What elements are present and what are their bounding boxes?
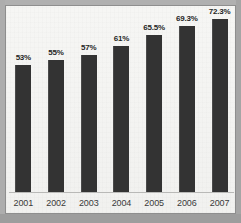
x-axis-tick-label: 2001 (8, 198, 39, 208)
bar (179, 26, 195, 192)
bar-value-label: 69.3% (176, 14, 198, 23)
bar-value-label: 53% (16, 53, 31, 62)
x-axis-tick-label: 2006 (171, 198, 202, 208)
x-axis-tick-label: 2007 (204, 198, 235, 208)
bar-slot: 72.3% (204, 7, 235, 192)
bar-value-label: 72.3% (209, 7, 231, 16)
bar (15, 65, 31, 192)
bar (212, 19, 228, 192)
plot-area: 53%55%57%61%65.5%69.3%72.3% (7, 7, 236, 191)
bar (113, 46, 129, 192)
bar-slot: 69.3% (171, 7, 202, 192)
chart-frame: 53%55%57%61%65.5%69.3%72.3% 200120022003… (5, 5, 236, 214)
x-axis-tick-label: 2004 (106, 198, 137, 208)
bar-value-label: 65.5% (143, 23, 165, 32)
bar (81, 55, 97, 192)
bar (146, 35, 162, 192)
chart-screenshot: 53%55%57%61%65.5%69.3%72.3% 200120022003… (0, 0, 241, 223)
x-axis-tick-label: 2002 (41, 198, 72, 208)
bar-value-label: 61% (114, 34, 129, 43)
bar-slot: 65.5% (139, 7, 170, 192)
bar-slot: 55% (41, 7, 72, 192)
bar-value-label: 55% (48, 48, 63, 57)
bar-slot: 57% (73, 7, 104, 192)
right-margin (236, 0, 241, 223)
bar-group: 53%55%57%61%65.5%69.3%72.3% (7, 7, 236, 192)
x-axis-tick-label: 2005 (139, 198, 170, 208)
bar-slot: 61% (106, 7, 137, 192)
bar-value-label: 57% (81, 43, 96, 52)
bar-slot: 53% (8, 7, 39, 192)
x-axis-tick-label: 2003 (73, 198, 104, 208)
bottom-margin (0, 214, 241, 223)
x-axis-tick-labels: 2001200220032004200520062007 (7, 193, 236, 213)
bar (48, 60, 64, 192)
